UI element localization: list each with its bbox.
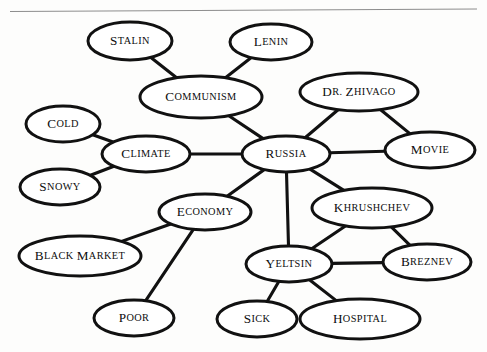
- edge-snowy-to-climate: [90, 166, 113, 175]
- node-label-cold: COLD: [47, 116, 79, 131]
- node-movie[interactable]: MOVIE: [385, 132, 475, 168]
- node-lenin[interactable]: LENIN: [230, 24, 312, 60]
- edge-russia-to-dr-zhivago: [305, 110, 338, 138]
- node-label-climate: CLIMATE: [121, 146, 170, 161]
- node-label-poor: POOR: [119, 310, 150, 325]
- node-label-dr-zhivago: DR. ZHIVAGO: [322, 84, 395, 99]
- node-label-breznev: BREZNEV: [401, 254, 453, 269]
- node-label-yeltsin: YELTSIN: [266, 256, 313, 271]
- edge-russia-to-economy: [227, 170, 264, 197]
- edge-yeltsin-to-sick: [267, 281, 279, 301]
- edge-yeltsin-to-breznev: [332, 263, 383, 264]
- node-label-communism: COMMUNISM: [165, 89, 236, 104]
- node-label-russia: RUSSIA: [266, 146, 307, 161]
- node-label-snowy: SNOWY: [39, 179, 81, 194]
- node-label-economy: ECONOMY: [177, 204, 234, 219]
- node-climate[interactable]: CLIMATE: [102, 136, 190, 172]
- node-label-lenin: LENIN: [254, 34, 289, 49]
- node-russia[interactable]: RUSSIA: [242, 136, 330, 172]
- node-dr-zhivago[interactable]: DR. ZHIVAGO: [300, 73, 418, 111]
- node-label-black-market: BLACK MARKET: [35, 248, 126, 263]
- edge-khrushchev-to-breznev: [391, 227, 410, 245]
- edge-russia-to-khrushchev: [310, 169, 344, 190]
- concept-map-canvas: STALINLENINCOMMUNISMDR. ZHIVAGOCOLDCLIMA…: [0, 0, 487, 352]
- node-poor[interactable]: POOR: [94, 300, 174, 336]
- node-label-khrushchev: KHRUSHCHEV: [334, 200, 411, 215]
- node-sick[interactable]: SICK: [217, 301, 297, 337]
- node-hospital[interactable]: HOSPITAL: [300, 299, 420, 339]
- edge-stalin-to-communism: [151, 57, 177, 77]
- node-communism[interactable]: COMMUNISM: [140, 76, 262, 118]
- edge-khrushchev-to-yeltsin: [312, 226, 346, 249]
- node-label-hospital: HOSPITAL: [333, 311, 387, 326]
- concept-map-figure: STALINLENINCOMMUNISMDR. ZHIVAGOCOLDCLIMA…: [0, 0, 487, 352]
- node-khrushchev[interactable]: KHRUSHCHEV: [312, 188, 432, 228]
- node-snowy[interactable]: SNOWY: [20, 169, 100, 205]
- edge-russia-to-movie: [330, 151, 385, 153]
- edge-economy-to-black-market: [122, 224, 171, 241]
- top-rule: [10, 9, 477, 12]
- node-label-movie: MOVIE: [411, 142, 449, 157]
- node-yeltsin[interactable]: YELTSIN: [246, 246, 332, 282]
- edge-economy-to-poor: [146, 229, 194, 300]
- node-cold[interactable]: COLD: [26, 106, 100, 142]
- top-rule-line: [10, 9, 477, 12]
- node-black-market[interactable]: BLACK MARKET: [19, 236, 141, 276]
- edge-cold-to-climate: [93, 135, 113, 142]
- node-breznev[interactable]: BREZNEV: [383, 244, 471, 280]
- node-label-sick: SICK: [244, 311, 271, 326]
- edge-dr-zhivago-to-movie: [381, 110, 411, 134]
- node-label-stalin: STALIN: [110, 33, 150, 48]
- node-economy[interactable]: ECONOMY: [159, 194, 251, 230]
- edge-communism-to-russia: [229, 116, 263, 139]
- edge-lenin-to-communism: [225, 58, 251, 78]
- edge-russia-to-yeltsin: [286, 172, 288, 246]
- node-stalin[interactable]: STALIN: [88, 22, 172, 60]
- edge-yeltsin-to-hospital: [309, 280, 336, 301]
